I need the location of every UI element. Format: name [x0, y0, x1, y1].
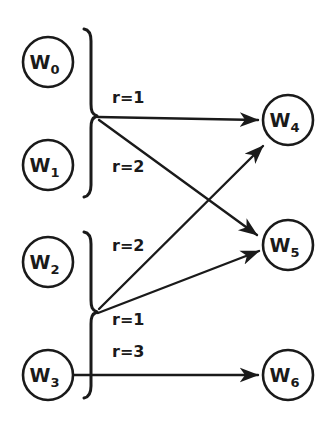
edge-label-top-w4: r=1 [112, 88, 144, 107]
node-w4-label: W [270, 109, 291, 131]
edge-line-bottom-w5 [98, 251, 259, 313]
edge-bottom-group-to-w5: r=1 [98, 251, 259, 329]
edge-label-top-w5: r=2 [112, 157, 144, 176]
node-w4[interactable]: W 4 [263, 95, 313, 145]
brace-top-group [84, 29, 97, 197]
node-w2-subscript: 2 [50, 262, 59, 277]
node-w2-label: W [30, 251, 51, 273]
node-w0[interactable]: W 0 [23, 37, 73, 87]
edge-line-top-w5 [99, 120, 257, 235]
node-link-diagram: r=1 r=2 r=2 r=1 r=3 [0, 0, 323, 421]
node-w5-label: W [270, 234, 291, 256]
node-w3-label: W [30, 364, 51, 386]
diagram-canvas: r=1 r=2 r=2 r=1 r=3 [0, 0, 323, 421]
edge-w3-to-w6: r=3 [73, 342, 258, 375]
node-w1[interactable]: W 1 [23, 140, 73, 190]
node-w6-label: W [270, 364, 291, 386]
node-layer: W 0 W 1 W 2 W 3 W 4 [23, 37, 313, 400]
node-w1-label: W [30, 154, 51, 176]
node-w2[interactable]: W 2 [23, 237, 73, 287]
node-w6-subscript: 6 [290, 375, 299, 390]
edge-label-w3-w6: r=3 [112, 342, 144, 361]
brace-bottom-group [84, 232, 97, 398]
node-w0-label: W [30, 51, 51, 73]
node-w6[interactable]: W 6 [263, 350, 313, 400]
edge-layer: r=1 r=2 r=2 r=1 r=3 [73, 88, 263, 375]
node-w1-subscript: 1 [50, 165, 59, 180]
node-w3[interactable]: W 3 [23, 350, 73, 400]
node-w5[interactable]: W 5 [263, 220, 313, 270]
edge-label-bottom-w5: r=1 [112, 310, 144, 329]
node-w4-subscript: 4 [290, 120, 299, 135]
node-w3-subscript: 3 [50, 375, 59, 390]
node-w5-subscript: 5 [290, 245, 299, 260]
node-w0-subscript: 0 [50, 62, 59, 77]
edge-line-top-w4 [98, 117, 258, 120]
brace-layer [84, 29, 97, 398]
edge-label-bottom-w4: r=2 [112, 236, 144, 255]
edge-top-group-to-w5: r=2 [99, 120, 257, 235]
edge-top-group-to-w4: r=1 [98, 88, 258, 120]
